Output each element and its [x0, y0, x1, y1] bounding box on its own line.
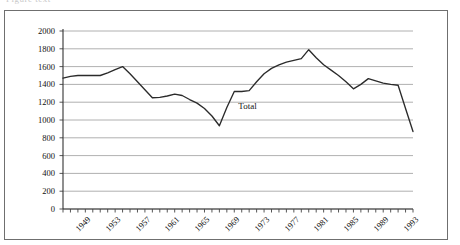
- y-axis-tick-label: 1000: [21, 116, 55, 125]
- plot-svg: [5, 11, 449, 241]
- line-chart: 2000180016001400120010008006004002000194…: [5, 11, 449, 241]
- y-axis-tick-label: 400: [21, 169, 55, 178]
- y-axis-tick-label: 1600: [21, 63, 55, 72]
- figure-frame: 2000180016001400120010008006004002000194…: [4, 10, 448, 240]
- series-line-total: [63, 50, 413, 132]
- y-axis-tick-label: 0: [21, 205, 55, 214]
- y-axis-tick-label: 1800: [21, 45, 55, 54]
- y-axis-tick-label: 1400: [21, 80, 55, 89]
- series-annotation-total: Total: [238, 101, 256, 111]
- y-axis-tick-label: 1200: [21, 98, 55, 107]
- y-axis-tick-label: 2000: [21, 27, 55, 36]
- y-axis-tick-label: 600: [21, 152, 55, 161]
- clipped-caption: Figure text: [6, 0, 126, 4]
- y-axis-tick-label: 200: [21, 187, 55, 196]
- y-axis-tick-label: 800: [21, 134, 55, 143]
